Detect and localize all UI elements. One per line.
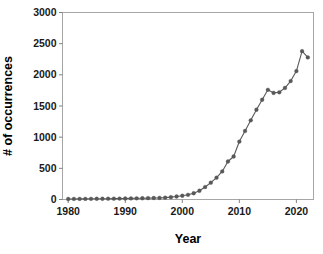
data-point xyxy=(255,108,259,112)
x-tick-label: 1990 xyxy=(114,205,138,217)
data-point xyxy=(209,181,213,185)
data-point xyxy=(135,196,139,200)
plot-area-frame xyxy=(63,13,314,200)
data-point xyxy=(249,118,253,122)
data-point xyxy=(220,170,224,174)
data-point xyxy=(198,189,202,193)
y-tick-label: 2000 xyxy=(33,68,57,80)
data-point xyxy=(272,91,276,95)
data-point xyxy=(300,49,304,53)
data-point xyxy=(237,140,241,144)
data-point xyxy=(158,196,162,200)
y-tick-label: 1000 xyxy=(33,131,57,143)
x-axis-title: Year xyxy=(175,232,202,246)
data-point xyxy=(163,196,167,200)
data-point xyxy=(89,197,93,201)
y-axis-tick-labels: 050010001500200025003000 xyxy=(33,6,57,205)
chart-figure: 050010001500200025003000 198019902000201… xyxy=(0,0,323,254)
data-point xyxy=(260,98,264,102)
data-point xyxy=(289,79,293,83)
data-point xyxy=(146,196,150,200)
data-point xyxy=(226,160,230,164)
y-tick-label: 500 xyxy=(39,162,57,174)
data-point xyxy=(152,196,156,200)
data-point xyxy=(186,193,190,197)
data-point xyxy=(294,69,298,73)
data-point xyxy=(118,197,122,201)
data-point xyxy=(277,90,281,94)
x-tick-label: 2010 xyxy=(228,205,252,217)
data-point xyxy=(123,197,127,201)
y-tick-label: 2500 xyxy=(33,37,57,49)
data-point xyxy=(66,197,70,201)
y-tick-label: 3000 xyxy=(33,6,57,18)
data-point xyxy=(266,88,270,92)
data-point xyxy=(83,197,87,201)
x-axis-tick-labels: 19801990200020102020 xyxy=(57,205,309,217)
data-point xyxy=(306,55,310,59)
data-point xyxy=(112,197,116,201)
x-tick-label: 2000 xyxy=(171,205,195,217)
data-point xyxy=(175,195,179,199)
y-tick-label: 1500 xyxy=(33,100,57,112)
data-point xyxy=(243,129,247,133)
data-point xyxy=(180,194,184,198)
data-point xyxy=(140,196,144,200)
data-point xyxy=(203,185,207,189)
data-point xyxy=(101,197,105,201)
data-point xyxy=(129,196,133,200)
y-axis-title: # of occurrences xyxy=(1,56,15,156)
data-point xyxy=(192,191,196,195)
y-axis-ticks xyxy=(59,13,63,200)
y-tick-label: 0 xyxy=(51,193,57,205)
data-point xyxy=(215,176,219,180)
data-point xyxy=(95,197,99,201)
data-point xyxy=(106,197,110,201)
data-point xyxy=(232,155,236,159)
data-point xyxy=(169,195,173,199)
data-point xyxy=(78,197,82,201)
data-point xyxy=(283,86,287,90)
line-chart: 050010001500200025003000 198019902000201… xyxy=(0,0,323,254)
data-point xyxy=(72,197,76,201)
x-tick-label: 2020 xyxy=(285,205,309,217)
x-tick-label: 1980 xyxy=(57,205,81,217)
